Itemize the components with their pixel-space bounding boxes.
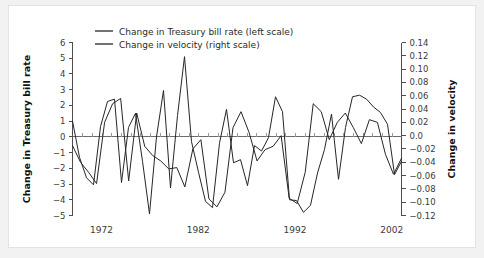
x-axis-tick-label: 1982 (187, 225, 210, 235)
right-axis-tick-label: 0.06 (410, 91, 429, 101)
left-axis-tick-label: −1 (53, 148, 66, 158)
legend-label-1: Change in velocity (right scale) (119, 40, 260, 50)
left-axis-tick-label: −4 (53, 195, 66, 205)
right-axis-tick-label: −0.04 (410, 157, 436, 167)
x-axis-tick-label: 2002 (380, 225, 403, 235)
left-axis-tick-label: −5 (53, 211, 66, 221)
chart-svg: 6543210−1−2−3−4−50.140.120.100.080.060.0… (0, 0, 484, 258)
right-axis-tick-label: −0.10 (410, 197, 436, 207)
left-axis-tick-label: 5 (60, 53, 65, 63)
right-axis-tick-label: −0.08 (410, 184, 436, 194)
right-axis-tick-label: 0.10 (410, 64, 429, 74)
left-axis-tick-label: 1 (60, 116, 65, 126)
right-axis-tick-label: −0.12 (410, 211, 436, 221)
left-axis-tick-label: −2 (53, 163, 66, 173)
left-axis-tick-label: 6 (60, 38, 65, 48)
legend-label-0: Change in Treasury bill rate (left scale… (119, 27, 293, 37)
series-velocity (73, 98, 402, 206)
figure-canvas: 6543210−1−2−3−4−50.140.120.100.080.060.0… (0, 0, 484, 258)
left-axis-tick-label: 4 (60, 69, 65, 79)
chart-plot-area: 6543210−1−2−3−4−50.140.120.100.080.060.0… (0, 0, 484, 258)
left-axis-tick-label: 0 (60, 132, 65, 142)
left-axis-tick-label: 3 (60, 85, 65, 95)
right-axis-tick-label: 0.04 (410, 104, 429, 114)
right-axis-tick-label: −0.06 (410, 171, 436, 181)
right-axis-tick-label: 0.0 (410, 131, 424, 141)
right-axis-tick-label: −0.02 (410, 144, 436, 154)
left-axis-title: Change in Treasury bill rate (21, 55, 32, 203)
right-axis-tick-label: 0.02 (410, 117, 429, 127)
right-axis-title: Change in velocity (446, 79, 457, 179)
right-axis-tick-label: 0.08 (410, 77, 429, 87)
x-axis-tick-label: 1992 (284, 225, 307, 235)
right-axis-tick-label: 0.12 (410, 51, 429, 61)
x-axis-tick-label: 1972 (90, 225, 113, 235)
left-axis-tick-label: −3 (53, 179, 66, 189)
right-axis-tick-label: 0.14 (410, 38, 429, 48)
left-axis-tick-label: 2 (60, 100, 65, 110)
